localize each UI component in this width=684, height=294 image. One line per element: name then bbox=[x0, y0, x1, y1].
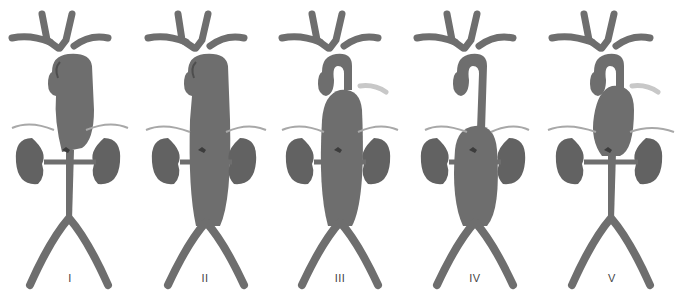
aorta-illustration-type-iii bbox=[270, 0, 410, 294]
aorta-illustration-type-i bbox=[0, 0, 140, 294]
panel-label: II bbox=[140, 272, 270, 284]
aorta-illustration-type-iv bbox=[405, 0, 545, 294]
panel-label: IV bbox=[405, 272, 545, 284]
panel-type-i: I bbox=[0, 0, 140, 294]
aorta-illustration-type-v bbox=[540, 0, 684, 294]
panel-type-ii: II bbox=[140, 0, 270, 294]
aorta-illustration-type-ii bbox=[140, 0, 270, 294]
panel-type-iv: IV bbox=[405, 0, 545, 294]
panel-label: III bbox=[270, 272, 410, 284]
panel-label: V bbox=[540, 272, 684, 284]
panel-label: I bbox=[0, 272, 140, 284]
panel-type-v: V bbox=[540, 0, 684, 294]
panel-type-iii: III bbox=[270, 0, 410, 294]
